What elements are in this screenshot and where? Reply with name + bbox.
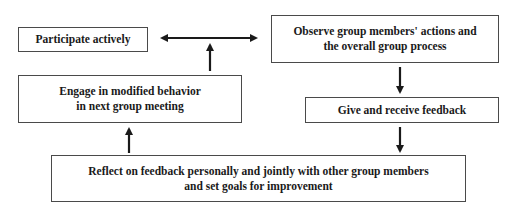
arrows-layer bbox=[0, 0, 512, 210]
